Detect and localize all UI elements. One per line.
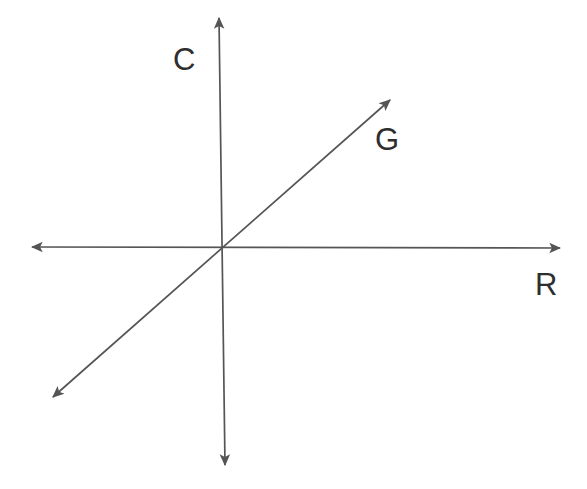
vertical-axis-label: C — [173, 44, 195, 75]
horizontal-axis-line — [32, 247, 560, 248]
diagram-canvas: C G R — [0, 0, 587, 489]
horizontal-axis-label: R — [535, 269, 557, 300]
diagonal-axis-label: G — [375, 124, 399, 155]
vertical-axis-line — [219, 18, 225, 465]
axis-diagram-svg — [0, 0, 587, 489]
